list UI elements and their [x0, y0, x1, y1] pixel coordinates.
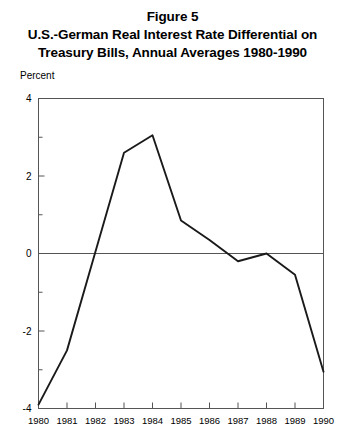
x-tick-label: 1990	[313, 415, 334, 426]
x-tick-label: 1985	[170, 415, 191, 426]
y-tick-label: 4	[26, 93, 32, 104]
x-tick-label: 1986	[199, 415, 220, 426]
figure-container: Figure 5 U.S.-German Real Interest Rate …	[0, 0, 345, 443]
y-tick-label: -2	[23, 326, 32, 337]
x-tick-label: 1987	[227, 415, 248, 426]
y-tick-label: 0	[26, 248, 32, 259]
line-chart-svg: 420-2-4 19801981198219831984198519861987…	[0, 0, 345, 443]
x-tick-label: 1984	[142, 415, 163, 426]
x-tick-label: 1983	[113, 415, 134, 426]
x-tick-label: 1980	[28, 415, 49, 426]
x-tick-label: 1982	[85, 415, 106, 426]
x-tick-label: 1988	[256, 415, 277, 426]
y-tick-label: 2	[26, 171, 32, 182]
x-tick-label: 1989	[284, 415, 305, 426]
plot-area: 420-2-4 19801981198219831984198519861987…	[0, 0, 345, 443]
x-tick-label: 1981	[56, 415, 77, 426]
y-tick-label: -4	[23, 403, 32, 414]
